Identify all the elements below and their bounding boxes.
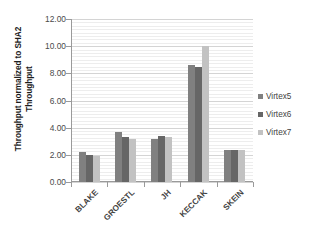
legend-label: Virtex6	[266, 110, 291, 119]
y-tick-label: 6.00	[32, 96, 66, 106]
bar	[115, 132, 122, 182]
y-axis-title-line1: Throughput normalized to SHA2	[13, 27, 24, 151]
bar	[158, 136, 165, 182]
bar-group	[217, 19, 253, 182]
bar	[202, 46, 209, 182]
category-separator	[217, 182, 218, 187]
category-separator	[180, 182, 181, 187]
legend-item: Virtex7	[258, 128, 291, 137]
legend-label: Virtex7	[266, 128, 291, 137]
bar-group	[180, 19, 216, 182]
bar	[93, 156, 100, 182]
legend: Virtex5Virtex6Virtex7	[258, 92, 291, 137]
bar	[195, 67, 202, 182]
legend-swatch-icon	[258, 112, 263, 117]
bar-chart: Throughput normalized to SHA2 Throughput…	[0, 0, 317, 239]
y-tick-label: 8.00	[32, 68, 66, 78]
category-separator	[107, 182, 108, 187]
bar	[224, 150, 231, 182]
bar	[122, 137, 129, 183]
legend-item: Virtex6	[258, 110, 291, 119]
bar-group	[144, 19, 180, 182]
y-tick-label: 10.00	[32, 41, 66, 51]
legend-swatch-icon	[258, 94, 263, 99]
legend-swatch-icon	[258, 130, 263, 135]
bar-group	[107, 19, 143, 182]
category-separator	[253, 182, 254, 187]
bar	[86, 155, 93, 182]
bar	[188, 65, 195, 183]
bar	[231, 150, 238, 182]
y-tick-label: 4.00	[32, 123, 66, 133]
bar	[238, 150, 245, 182]
bar	[165, 137, 172, 182]
bars-layer	[71, 19, 253, 182]
legend-label: Virtex5	[266, 92, 291, 101]
legend-item: Virtex5	[258, 92, 291, 101]
bar-group	[71, 19, 107, 182]
category-separator	[71, 182, 72, 187]
bar	[129, 139, 136, 182]
bar	[151, 139, 158, 182]
y-tick-label: 0.00	[32, 177, 66, 187]
bar	[79, 152, 86, 182]
category-separator	[144, 182, 145, 187]
y-axis-title: Throughput normalized to SHA2 Throughput	[7, 4, 41, 174]
y-tick-label: 12.00	[32, 14, 66, 24]
gridline-major	[71, 182, 253, 183]
y-tick-label: 2.00	[32, 150, 66, 160]
